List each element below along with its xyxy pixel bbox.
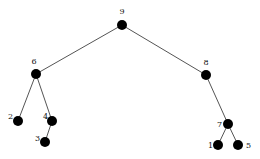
- node-3: [40, 137, 50, 147]
- node-label-8: 8: [203, 58, 208, 67]
- node-8: [201, 70, 211, 80]
- tree-labels: 968243715: [8, 7, 251, 150]
- node-7: [223, 119, 233, 129]
- edge-9-6: [36, 25, 122, 74]
- tree-diagram: 968243715: [0, 0, 260, 159]
- tree-edges: [18, 25, 238, 145]
- node-9: [117, 20, 127, 30]
- node-1: [213, 140, 223, 150]
- node-label-2: 2: [8, 112, 13, 121]
- node-label-4: 4: [43, 112, 48, 121]
- edge-8-7: [206, 75, 228, 124]
- node-4: [47, 116, 57, 126]
- node-label-1: 1: [208, 141, 213, 150]
- node-6: [31, 69, 41, 79]
- node-label-6: 6: [31, 57, 36, 66]
- node-5: [233, 140, 243, 150]
- edge-6-2: [18, 74, 36, 121]
- node-label-3: 3: [35, 134, 40, 143]
- node-label-9: 9: [119, 7, 124, 16]
- node-label-7: 7: [217, 120, 222, 129]
- node-2: [13, 116, 23, 126]
- tree-nodes: [13, 20, 243, 150]
- edge-9-8: [122, 25, 206, 75]
- node-label-5: 5: [246, 141, 251, 150]
